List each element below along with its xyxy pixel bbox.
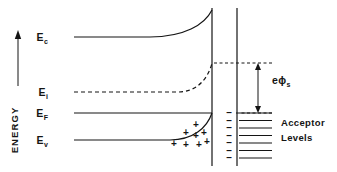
band-label-Ev: Ev <box>37 134 49 148</box>
band-bending-arrowhead-down <box>255 106 261 113</box>
space-charge-plus-8: + <box>204 136 210 147</box>
intrinsic-fermi-level <box>74 63 212 92</box>
acceptor-levels-label-line2: Levels <box>281 132 313 143</box>
acceptor-minus-7: – <box>226 152 232 163</box>
band-label-Ei: Ei <box>39 86 49 100</box>
band-diagram-figure: ENERGYEcEiEFEv++++++++–––––––AcceptorLev… <box>0 0 337 172</box>
energy-axis-label: ENERGY <box>9 107 20 154</box>
band-label-text-EF: EF <box>36 107 49 121</box>
space-charge-plus-7: + <box>196 139 202 150</box>
band-label-text-Ei: Ei <box>39 86 49 100</box>
band-bending-arrowhead-up <box>255 63 261 70</box>
space-charge-plus-6: + <box>183 139 189 150</box>
space-charge-plus-2: + <box>183 127 189 138</box>
band-diagram-svg: ENERGYEcEiEFEv++++++++–––––––AcceptorLev… <box>0 0 337 172</box>
valence-band-edge <box>74 113 212 140</box>
space-charge-plus-5: + <box>171 138 177 149</box>
band-label-text-Ec: Ec <box>37 31 49 45</box>
conduction-band-edge <box>74 10 212 37</box>
band-label-Ec: Ec <box>37 31 49 45</box>
energy-axis-arrowhead <box>15 30 21 39</box>
acceptor-levels-label-line1: Acceptor <box>281 117 325 128</box>
band-bending-label: eϕs <box>272 74 291 88</box>
band-label-EF: EF <box>36 107 49 121</box>
space-charge-plus-1: + <box>193 119 199 130</box>
band-label-text-Ev: Ev <box>37 134 49 148</box>
